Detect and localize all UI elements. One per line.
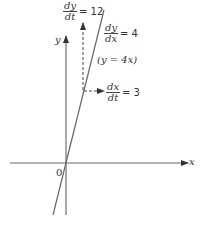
y-axis-label: y — [55, 35, 61, 45]
dx-dt-label: dx dt = 3 — [106, 82, 140, 103]
diagram-canvas — [0, 0, 201, 227]
dy-dt-label: dy dt = 12 — [63, 1, 103, 22]
x-axis-label: x — [189, 157, 195, 167]
origin-label: 0 — [56, 168, 62, 178]
slope-label: dy dx = 4 — [104, 23, 138, 44]
equation-label: (y = 4x) — [97, 55, 137, 65]
